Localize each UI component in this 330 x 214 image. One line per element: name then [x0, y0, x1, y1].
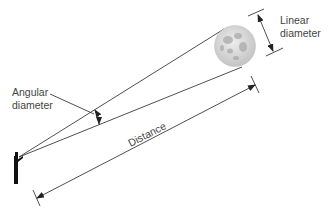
observer-icon — [14, 152, 23, 184]
angular-label-line1: Angular — [12, 86, 53, 99]
linear-diameter-label: Linear diameter — [280, 14, 321, 40]
angular-diameter-diagram: Linear diameter Angular diameter Distanc… — [0, 0, 330, 214]
moon-icon — [215, 26, 256, 67]
angular-label-line2: diameter — [12, 99, 53, 112]
angular-diameter-label: Angular diameter — [12, 86, 53, 112]
linear-label-line1: Linear — [280, 14, 321, 27]
linear-label-line2: diameter — [280, 27, 321, 40]
angular-diameter-indicator — [50, 94, 99, 124]
